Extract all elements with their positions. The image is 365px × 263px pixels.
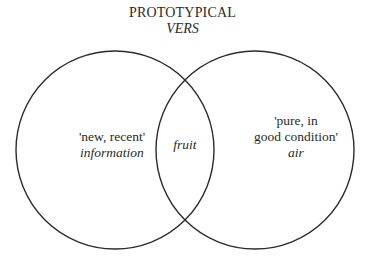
right-set-label: 'pure, in good condition' air xyxy=(236,113,356,161)
right-set-sense-line1: 'pure, in xyxy=(236,113,356,129)
right-set-example: air xyxy=(236,145,356,161)
intersection-example: fruit xyxy=(160,137,210,153)
right-set-sense-line2: good condition' xyxy=(236,129,356,145)
left-set-label: 'new, recent' information xyxy=(50,129,174,161)
left-set-example: information xyxy=(50,145,174,161)
left-set-sense: 'new, recent' xyxy=(50,129,174,145)
